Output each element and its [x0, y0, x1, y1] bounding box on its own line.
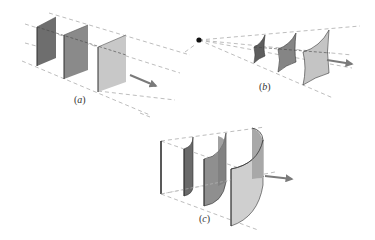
cylindrical-wavefront-2 [204, 133, 226, 206]
cylindrical-wavefront-1 [184, 137, 193, 196]
panel-c-label: (c) [199, 213, 210, 224]
label-paren: ) [207, 213, 210, 224]
panel-c-cylindrical-waves [140, 113, 292, 230]
spherical-wavefront-3 [303, 30, 329, 85]
panel-a-label: (a) [74, 94, 86, 105]
cylindrical-wavefront-3 [231, 128, 263, 226]
panel-b-spherical-waves [185, 26, 360, 98]
arrow-right-icon [130, 75, 156, 86]
spherical-wavefront-1 [254, 35, 265, 63]
panel-a-plane-waves [22, 13, 190, 115]
spherical-wavefront-2 [278, 33, 296, 72]
arrow-right-icon [265, 176, 292, 179]
plane-wavefront-3 [98, 35, 126, 92]
label-paren: ) [267, 81, 270, 92]
label-paren: ) [82, 94, 85, 105]
point-source-dot-icon [196, 37, 201, 42]
panel-b-label: (b) [259, 81, 271, 92]
plane-wavefront-1 [37, 17, 56, 66]
arrow-right-icon [327, 60, 352, 64]
plane-wavefront-2 [64, 25, 88, 79]
wavefronts-diagram [0, 0, 375, 240]
